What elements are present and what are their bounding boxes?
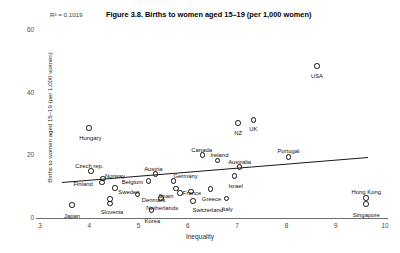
x-tick-label: 9	[329, 222, 343, 229]
data-point-marker	[190, 198, 196, 204]
x-axis-title: Inequality	[0, 233, 400, 240]
x-tick-label: 10	[378, 222, 392, 229]
figure-title: Figure 3.8. Births to women aged 15–19 (…	[106, 10, 311, 19]
data-point-label: Singapore	[353, 212, 380, 218]
x-tick-label: 5	[132, 222, 146, 229]
data-point-label: Greece	[202, 196, 221, 202]
data-point-marker	[200, 152, 206, 158]
x-tick-label: 8	[279, 222, 293, 229]
data-point-marker	[235, 120, 241, 126]
data-point-marker	[146, 178, 152, 184]
data-point-marker	[69, 202, 75, 208]
data-point-marker	[314, 63, 320, 69]
data-point-label: Japan	[64, 213, 80, 219]
data-point-label: Hungary	[79, 135, 101, 141]
data-point-label: Israel	[228, 183, 242, 189]
data-point-marker	[286, 154, 292, 160]
data-point-marker	[88, 168, 94, 174]
y-tick-label: 0	[18, 214, 34, 221]
data-point-label: Korea	[145, 218, 161, 224]
data-point-marker	[237, 164, 243, 170]
data-point-label: Italy	[222, 206, 233, 212]
x-tick-label: 6	[181, 222, 195, 229]
data-point-label: Switzerland	[193, 207, 223, 213]
data-point-label: Belgium	[122, 179, 143, 185]
data-point-label: Spain	[158, 193, 173, 199]
data-point-marker	[86, 125, 92, 131]
data-point-label: USA	[311, 73, 323, 79]
data-point-marker	[153, 171, 159, 177]
data-point-marker	[177, 190, 183, 196]
x-tick-label: 3	[33, 222, 47, 229]
r-squared-annotation: R² = 0.1019	[50, 11, 83, 18]
data-point-label: Netherlands	[146, 205, 178, 211]
data-point-label: Finland	[73, 181, 92, 187]
x-tick-label: 7	[230, 222, 244, 229]
data-point-label: Australia	[228, 159, 251, 165]
data-point-label: Portugal	[277, 148, 299, 154]
data-point-label: Austria	[144, 166, 162, 172]
data-point-label: Hong Kong	[352, 189, 381, 195]
data-point-marker	[363, 195, 369, 201]
data-point-marker	[251, 117, 257, 123]
y-axis-title: Births to women aged 15–19 (per 1,000 wo…	[46, 13, 53, 223]
y-tick-label: 40	[18, 89, 34, 96]
data-point-label: NZ	[234, 130, 242, 136]
data-point-label: Canada	[191, 147, 212, 153]
x-tick-label: 4	[82, 222, 96, 229]
data-point-marker	[112, 185, 118, 191]
data-point-label: UK	[249, 126, 257, 132]
data-point-label: Norway	[105, 173, 125, 179]
data-point-label: Slovenia	[101, 209, 124, 215]
data-point-label: Germany	[173, 173, 197, 179]
x-axis-line	[36, 218, 388, 219]
data-point-marker	[188, 189, 194, 195]
data-point-marker	[107, 201, 113, 207]
data-point-marker	[171, 178, 177, 184]
y-tick-label: 20	[18, 151, 34, 158]
data-point-label: Czech rep.	[75, 163, 103, 169]
data-point-label: Ireland	[210, 152, 228, 158]
y-tick-label: 60	[18, 26, 34, 33]
figure-container: R² = 0.1019 Figure 3.8. Births to women …	[0, 0, 400, 253]
